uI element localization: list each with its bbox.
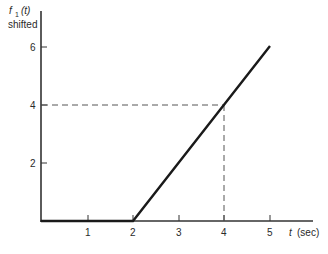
y-tick-label: 4 — [30, 100, 36, 111]
y-tick-label: 2 — [30, 158, 36, 169]
y-tick-label: 6 — [30, 42, 36, 53]
y-axis-argument: (t) — [21, 5, 30, 16]
series-line-f1-shifted — [41, 46, 270, 221]
chart: 6 4 2 1 2 3 4 5 t (sec) f 1 (t) shifted — [0, 0, 328, 254]
y-axis-label-shifted: shifted — [8, 19, 37, 30]
x-tick-label: 4 — [221, 227, 227, 238]
x-tick-label: 5 — [267, 227, 273, 238]
x-tick-label: 3 — [176, 227, 182, 238]
y-axis-function: f — [9, 5, 13, 16]
y-axis-subscript: 1 — [15, 11, 19, 18]
x-axis-unit: (sec) — [297, 227, 319, 238]
x-tick-label: 2 — [130, 227, 136, 238]
x-axis-variable: t — [289, 227, 293, 238]
x-tick-label: 1 — [85, 227, 91, 238]
